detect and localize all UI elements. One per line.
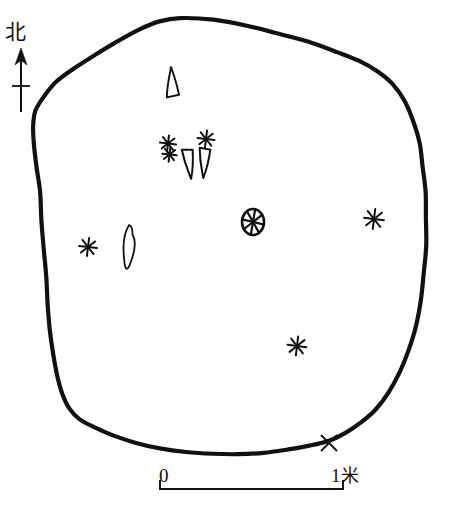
star-marker-left: [79, 238, 97, 256]
star-center: [204, 137, 208, 141]
tusk-path: [198, 148, 211, 179]
scale-bar: [160, 480, 343, 489]
artifact-layer: [79, 67, 384, 451]
star-glyph: [160, 135, 176, 151]
star-marker-right: [364, 209, 384, 229]
scale-bar-value: 1: [331, 465, 341, 486]
tooth-path: [165, 67, 179, 98]
star-marker-double: [160, 135, 177, 161]
blade-outline: [121, 225, 137, 270]
star-glyph: [198, 131, 215, 148]
star-glyph: [288, 337, 307, 356]
star-glyph: [162, 147, 176, 161]
star-center: [166, 142, 170, 146]
blade-path: [121, 225, 137, 270]
plan-drawing-canvas: [0, 0, 450, 527]
tusk-outline-left: [182, 148, 196, 179]
north-arrow-icon: [12, 48, 30, 112]
star-marker-upper-right: [198, 131, 215, 148]
star-center: [372, 217, 376, 221]
scale-bar-label-left: 0: [159, 466, 169, 485]
star-center: [295, 344, 299, 348]
site-plan-figure: 北 0 1米: [0, 0, 450, 527]
star-marker-lower: [288, 337, 307, 356]
star-center: [168, 153, 172, 157]
spoked-whorl: [242, 209, 264, 235]
north-label: 北: [5, 22, 26, 43]
tooth-outline-upper: [165, 67, 179, 98]
scale-bar-label-right: 1米: [331, 466, 359, 485]
star-glyph: [364, 209, 384, 229]
star-center: [86, 245, 90, 249]
tusk-outline-right: [198, 148, 211, 179]
star-glyph: [79, 238, 97, 256]
whorl-glyph: [242, 209, 264, 235]
tusk-path: [182, 148, 196, 179]
scale-bar-bracket: [160, 480, 343, 489]
pit-edge-path: [33, 18, 426, 454]
whorl-hub: [251, 220, 254, 223]
pit-outline: [33, 18, 426, 454]
scale-bar-unit: 米: [341, 465, 359, 486]
